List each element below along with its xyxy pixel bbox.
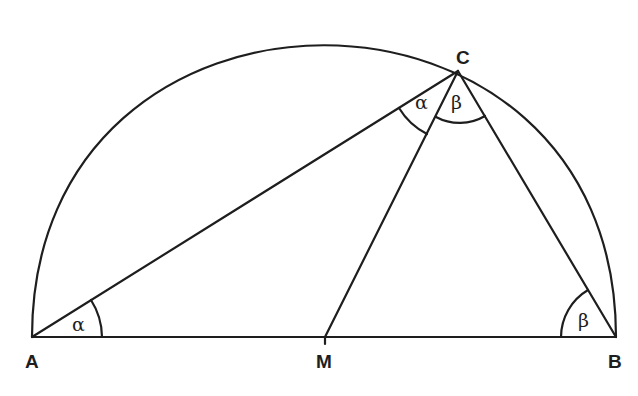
label-c: C	[456, 47, 470, 68]
segment-mc	[325, 71, 458, 337]
segment-bc	[458, 71, 616, 337]
angle-label-b-beta: β	[578, 309, 589, 331]
segment-ac	[32, 71, 458, 337]
geometry-diagram: A M B C α α β β	[0, 0, 638, 396]
label-m: M	[316, 351, 332, 372]
angle-label-c-alpha: α	[415, 91, 428, 113]
label-b: B	[608, 351, 622, 372]
angle-label-a-alpha: α	[72, 313, 85, 335]
angle-arc-c-beta	[436, 116, 485, 123]
angle-arc-a	[91, 300, 102, 337]
angle-label-c-beta: β	[451, 91, 462, 113]
label-a: A	[25, 351, 39, 372]
